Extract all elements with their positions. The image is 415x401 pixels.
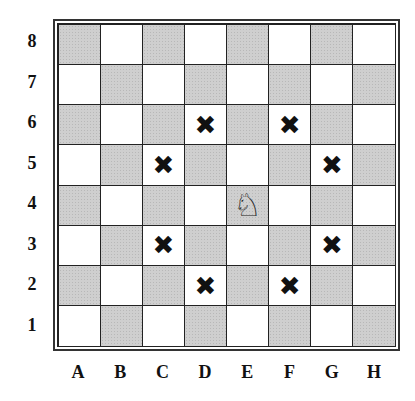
square-h8	[352, 24, 395, 65]
square-g3: ✖	[310, 225, 353, 266]
square-d3	[184, 225, 227, 266]
x-mark-icon: ✖	[152, 232, 174, 258]
square-d6: ✖	[184, 104, 227, 145]
rank-label-1: 1	[22, 315, 42, 336]
square-g7	[310, 64, 353, 105]
square-b8	[100, 24, 143, 65]
square-a4	[58, 185, 101, 226]
square-d5	[184, 144, 227, 185]
rank-label-5: 5	[22, 153, 42, 174]
square-c3: ✖	[142, 225, 185, 266]
square-h7	[352, 64, 395, 105]
square-f3	[268, 225, 311, 266]
x-mark-icon: ✖	[279, 273, 301, 299]
square-c7	[142, 64, 185, 105]
square-h6	[352, 104, 395, 145]
file-label-b: B	[105, 362, 135, 383]
x-mark-icon: ✖	[195, 112, 217, 138]
square-h2	[352, 265, 395, 306]
x-mark-icon: ✖	[195, 273, 217, 299]
rank-label-8: 8	[22, 31, 42, 52]
square-c2	[142, 265, 185, 306]
square-e3	[226, 225, 269, 266]
square-e4: ♘	[226, 185, 269, 226]
rank-label-2: 2	[22, 274, 42, 295]
square-f2: ✖	[268, 265, 311, 306]
square-b6	[100, 104, 143, 145]
square-b1	[100, 305, 143, 346]
square-e7	[226, 64, 269, 105]
square-f5	[268, 144, 311, 185]
file-label-f: F	[275, 362, 305, 383]
square-h1	[352, 305, 395, 346]
square-b4	[100, 185, 143, 226]
x-mark-icon: ✖	[279, 112, 301, 138]
rank-label-4: 4	[22, 193, 42, 214]
square-a8	[58, 24, 101, 65]
square-h3	[352, 225, 395, 266]
square-g5: ✖	[310, 144, 353, 185]
square-h4	[352, 185, 395, 226]
file-label-c: C	[148, 362, 178, 383]
square-e1	[226, 305, 269, 346]
board-frame: ✖✖✖✖♘✖✖✖✖	[53, 19, 400, 351]
square-f4	[268, 185, 311, 226]
square-d8	[184, 24, 227, 65]
square-e8	[226, 24, 269, 65]
x-mark-icon: ✖	[321, 232, 343, 258]
square-g8	[310, 24, 353, 65]
square-d1	[184, 305, 227, 346]
knight-icon: ♘	[233, 189, 262, 221]
file-label-h: H	[359, 362, 389, 383]
square-d4	[184, 185, 227, 226]
square-g2	[310, 265, 353, 306]
square-c6	[142, 104, 185, 145]
square-h5	[352, 144, 395, 185]
square-e6	[226, 104, 269, 145]
square-b5	[100, 144, 143, 185]
square-g1	[310, 305, 353, 346]
square-a7	[58, 64, 101, 105]
square-g4	[310, 185, 353, 226]
x-mark-icon: ✖	[321, 152, 343, 178]
square-a2	[58, 265, 101, 306]
square-a1	[58, 305, 101, 346]
square-b3	[100, 225, 143, 266]
square-g6	[310, 104, 353, 145]
square-f7	[268, 64, 311, 105]
square-f8	[268, 24, 311, 65]
square-a3	[58, 225, 101, 266]
rank-label-6: 6	[22, 112, 42, 133]
square-e5	[226, 144, 269, 185]
rank-label-7: 7	[22, 72, 42, 93]
square-e2	[226, 265, 269, 306]
square-d7	[184, 64, 227, 105]
rank-label-3: 3	[22, 234, 42, 255]
square-c5: ✖	[142, 144, 185, 185]
square-b7	[100, 64, 143, 105]
chessboard: ✖✖✖✖♘✖✖✖✖	[57, 23, 396, 347]
square-b2	[100, 265, 143, 306]
file-label-e: E	[232, 362, 262, 383]
x-mark-icon: ✖	[152, 152, 174, 178]
square-d2: ✖	[184, 265, 227, 306]
square-a6	[58, 104, 101, 145]
square-f1	[268, 305, 311, 346]
square-c4	[142, 185, 185, 226]
file-label-d: D	[190, 362, 220, 383]
square-f6: ✖	[268, 104, 311, 145]
file-label-a: A	[63, 362, 93, 383]
square-c1	[142, 305, 185, 346]
square-c8	[142, 24, 185, 65]
file-label-g: G	[317, 362, 347, 383]
square-a5	[58, 144, 101, 185]
